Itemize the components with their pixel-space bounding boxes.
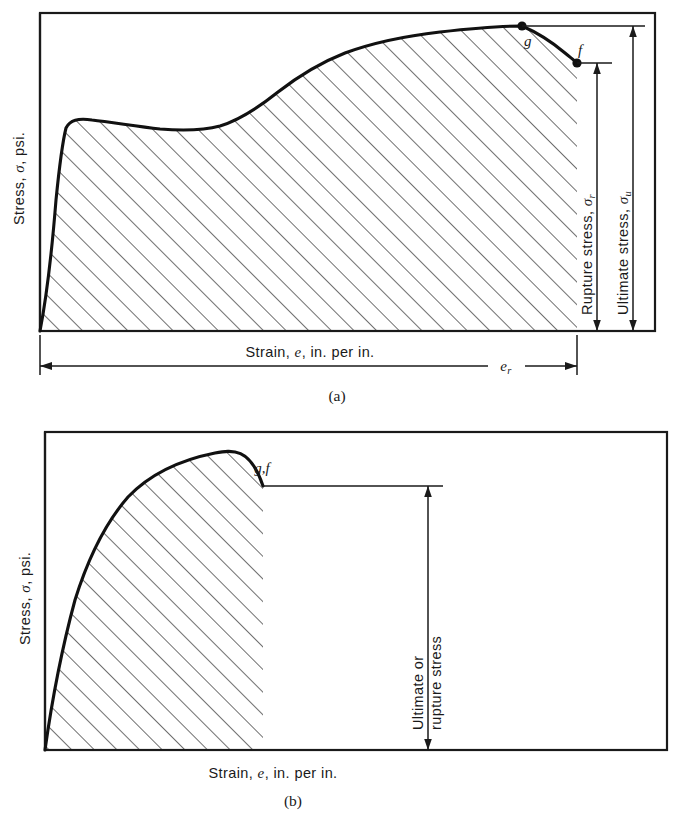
panel-a-label-f: f: [578, 42, 584, 58]
panel-b-x-axis-label: Strain, e, in. per in.: [208, 765, 337, 781]
panel-a-label-g: g: [524, 33, 532, 49]
panel-b-stress-label-line2: rupture stress: [428, 636, 444, 730]
panel-a-y-axis-label: Stress, σ, psi.: [11, 132, 27, 225]
panel-b-stress-label-line1: Ultimate or: [410, 656, 426, 731]
panel-b-y-axis-label: Stress, σ, psi.: [17, 552, 33, 645]
panel-b-label-gf: g,f: [254, 460, 271, 476]
panel-a-x-axis-label: Strain, e, in. per in.: [245, 344, 374, 360]
panel-a-rupture-stress-label: Rupture stress, σr: [579, 193, 597, 315]
stress-strain-figure: g f Stress, σ, psi. Rupture stress, σr U…: [0, 0, 673, 823]
panel-a: g f Stress, σ, psi. Rupture stress, σr U…: [11, 12, 660, 405]
panel-b-caption: (b): [284, 792, 302, 810]
panel-a-caption: (a): [328, 387, 345, 405]
panel-a-ultimate-stress-label: Ultimate stress, σu: [615, 191, 633, 315]
panel-a-rupture-strain-label: er: [500, 358, 512, 376]
panel-b: g,f Stress, σ, psi. Ultimate or rupture …: [17, 430, 667, 810]
